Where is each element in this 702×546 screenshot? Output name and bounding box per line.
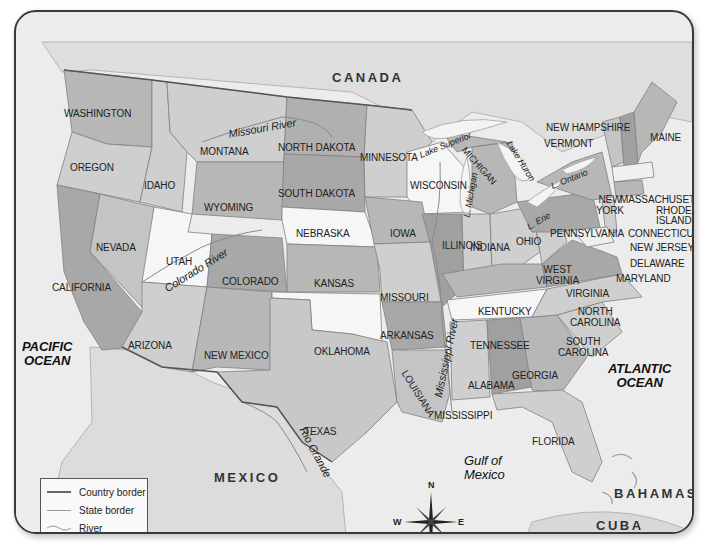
- label-rhode-island: RHODE ISLAND: [656, 206, 692, 226]
- label-wyoming: WYOMING: [204, 202, 253, 213]
- label-pennsylvania: PENNSYLVANIA: [550, 228, 624, 239]
- label-montana: MONTANA: [200, 146, 249, 157]
- label-gulf-of-mexico: Gulf of Mexico: [464, 454, 505, 482]
- label-tennessee: TENNESSEE: [470, 340, 530, 351]
- label-north-dakota: NORTH DAKOTA: [278, 142, 355, 153]
- label-new-mexico: NEW MEXICO: [204, 350, 269, 361]
- label-massachusetts: MASSACHUSETTS: [620, 194, 694, 205]
- label-utah: UTAH: [166, 256, 192, 267]
- label-washington: WASHINGTON: [64, 108, 131, 119]
- label-texas: TEXAS: [304, 426, 336, 437]
- label-south-dakota: SOUTH DAKOTA: [278, 188, 355, 199]
- legend-item-river: River: [47, 521, 102, 534]
- legend-item-country-border: Country border: [47, 485, 146, 499]
- label-south-carolina: SOUTH CAROLINA: [558, 336, 608, 358]
- compass-east: E: [458, 517, 464, 527]
- label-north-carolina: NORTH CAROLINA: [570, 306, 620, 328]
- label-maine: MAINE: [650, 132, 681, 143]
- map-area: CANADA MEXICO BAHAMAS CUBA PACIFIC OCEAN…: [16, 42, 692, 532]
- label-indiana: INDIANA: [470, 242, 510, 253]
- river-swatch-icon: [47, 524, 71, 532]
- label-west-virginia: WEST VIRGINIA: [536, 264, 579, 286]
- label-vermont: VERMONT: [544, 138, 593, 149]
- label-wisconsin: WISCONSIN: [410, 180, 467, 191]
- compass-north: N: [428, 480, 435, 490]
- label-california: CALIFORNIA: [52, 282, 111, 293]
- map-frame: United States: [14, 10, 694, 534]
- label-pacific-ocean: PACIFIC OCEAN: [22, 340, 72, 368]
- label-oregon: OREGON: [70, 162, 114, 173]
- label-idaho: IDAHO: [144, 180, 175, 191]
- label-bahamas: BAHAMAS: [614, 486, 694, 501]
- label-florida: FLORIDA: [532, 436, 575, 447]
- label-atlantic-ocean: ATLANTIC OCEAN: [608, 362, 671, 390]
- compass-west: W: [393, 517, 402, 527]
- label-new-jersey: NEW JERSEY: [630, 242, 694, 253]
- country-border-swatch-icon: [47, 491, 71, 493]
- label-oklahoma: OKLAHOMA: [314, 346, 370, 357]
- label-maryland: MARYLAND: [616, 273, 671, 284]
- label-arkansas: ARKANSAS: [380, 330, 434, 341]
- label-minnesota: MINNESOTA: [360, 152, 418, 163]
- label-nebraska: NEBRASKA: [296, 228, 350, 239]
- label-iowa: IOWA: [390, 228, 416, 239]
- us-map-graphic: [14, 10, 694, 534]
- label-alabama: ALABAMA: [468, 380, 515, 391]
- legend-item-state-border: State border: [47, 503, 134, 517]
- map-legend: Country border State border River: [40, 478, 148, 534]
- label-connecticut: CONNECTICUT: [628, 228, 694, 239]
- state-border-swatch-icon: [47, 510, 71, 511]
- label-mexico: MEXICO: [214, 470, 280, 485]
- label-delaware: DELAWARE: [630, 258, 685, 269]
- compass-rose: N S E W: [396, 482, 466, 534]
- label-cuba: CUBA: [596, 518, 644, 533]
- label-nevada: NEVADA: [96, 242, 136, 253]
- label-missouri: MISSOURI: [380, 292, 429, 303]
- label-kansas: KANSAS: [314, 278, 354, 289]
- label-mississippi: MISSISSIPPI: [434, 410, 492, 421]
- label-virginia: VIRGINIA: [566, 288, 609, 299]
- label-georgia: GEORGIA: [512, 370, 558, 381]
- label-ohio: OHIO: [516, 236, 541, 247]
- label-new-hampshire: NEW HAMPSHIRE: [546, 122, 630, 133]
- label-canada: CANADA: [332, 70, 403, 85]
- label-colorado: COLORADO: [222, 276, 278, 287]
- label-kentucky: KENTUCKY: [478, 306, 532, 317]
- label-arizona: ARIZONA: [128, 340, 172, 351]
